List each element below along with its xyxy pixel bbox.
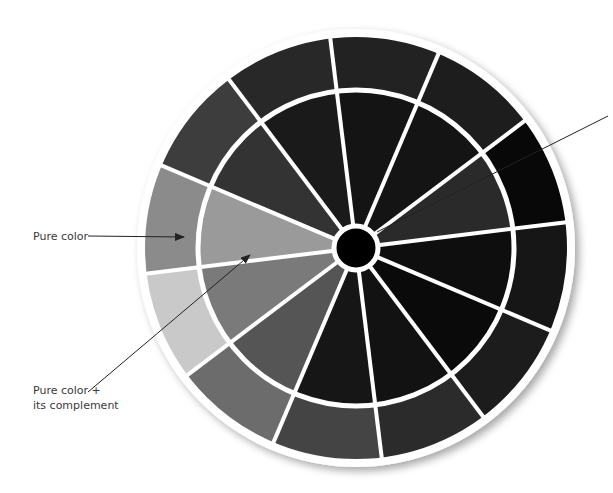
complement-label-line2: its complement <box>33 398 119 413</box>
color-wheel <box>0 0 613 493</box>
pure-color-complement-label: Pure color + its complement <box>33 383 119 413</box>
center-hub <box>334 226 378 270</box>
complement-label-line1: Pure color + <box>33 383 119 398</box>
pure-color-label: Pure color <box>33 229 88 244</box>
